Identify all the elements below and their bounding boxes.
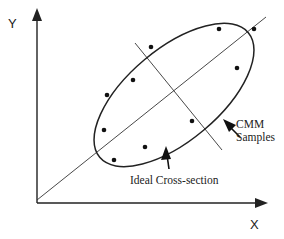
sample-point — [102, 128, 107, 133]
cmm-sampling-diagram: Y X CMM Samples Ideal Cross-section — [0, 0, 284, 239]
x-axis-arrow-icon — [255, 198, 268, 208]
x-axis-label: X — [250, 217, 259, 232]
sample-point — [235, 66, 240, 71]
sample-point — [190, 119, 195, 124]
y-axis — [32, 8, 42, 203]
ideal-cross-section-label: Ideal Cross-section — [130, 174, 219, 186]
sample-point — [217, 27, 222, 32]
x-axis — [37, 198, 268, 208]
y-axis-label: Y — [8, 16, 17, 31]
minor-axis-line — [135, 43, 222, 150]
major-axis-line — [37, 17, 266, 200]
sample-point — [252, 27, 257, 32]
sample-point — [131, 78, 136, 83]
cmm-sample-points — [102, 27, 257, 163]
sample-point — [112, 158, 117, 163]
y-axis-arrow-icon — [32, 8, 42, 21]
cmm-samples-label-line2: Samples — [236, 131, 275, 144]
cmm-samples-label-line1: CMM — [236, 118, 264, 130]
ideal-cross-section-pointer — [161, 146, 171, 169]
sample-point — [143, 145, 148, 150]
sample-point — [149, 45, 154, 50]
ideal-cross-section-ellipse — [70, 0, 278, 193]
sample-point — [105, 93, 110, 98]
